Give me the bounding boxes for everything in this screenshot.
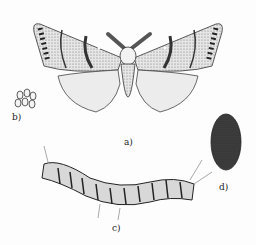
cocoon (211, 114, 241, 170)
adult-moth (34, 24, 223, 112)
illustration (0, 0, 256, 245)
eggs (15, 89, 36, 108)
label-adult: a) (124, 138, 133, 147)
label-eggs: b) (12, 113, 21, 122)
moth-life-cycle-figure: a) b) c) d) (0, 0, 256, 245)
label-larva: c) (112, 224, 121, 233)
label-cocoon: d) (219, 183, 228, 192)
larva (42, 146, 212, 220)
